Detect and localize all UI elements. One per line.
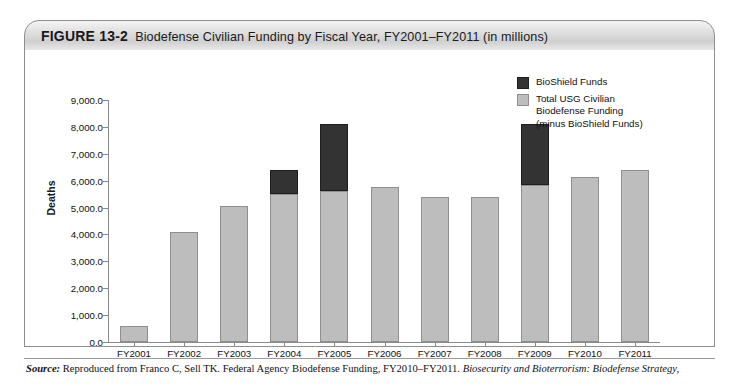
y-tick-label: 2,000.0: [41, 283, 103, 294]
bar-segment-total-usg: [621, 170, 649, 342]
bar-stack[interactable]: [270, 170, 298, 342]
bar-slot: [460, 100, 510, 342]
chart-legend: BioShield Funds Total USG Civilian Biode…: [517, 76, 682, 134]
bar-slot: [510, 100, 560, 342]
bar-segment-total-usg: [421, 197, 449, 342]
y-tick-mark: [103, 234, 108, 235]
chart-plot: Deaths 0.01,000.02,000.03,000.04,000.05,…: [25, 50, 716, 347]
source-divider: [24, 358, 715, 359]
bar-slot: [560, 100, 610, 342]
bar-segment-total-usg: [521, 185, 549, 342]
bar-segment-total-usg: [571, 177, 599, 342]
x-tick-mark: [234, 342, 235, 347]
x-tick-mark: [184, 342, 185, 347]
y-tick-label: 8,000.0: [41, 121, 103, 132]
x-tick-mark: [535, 342, 536, 347]
legend-label-bioshield: BioShield Funds: [536, 76, 607, 88]
bar-slot: [259, 100, 309, 342]
source-text: Reproduced from Franco C, Sell TK. Feder…: [60, 363, 463, 374]
bar-stack[interactable]: [371, 187, 399, 342]
bar-stack[interactable]: [521, 124, 549, 342]
y-tick-label: 0.0: [41, 337, 103, 348]
bar-stack[interactable]: [571, 177, 599, 342]
x-tick-mark: [635, 342, 636, 347]
source-label: Source:: [26, 363, 60, 374]
figure-title: Biodefense Civilian Funding by Fiscal Ye…: [128, 30, 548, 44]
y-tick-label: 3,000.0: [41, 256, 103, 267]
bar-stack[interactable]: [320, 124, 348, 342]
bar-stack[interactable]: [170, 232, 198, 342]
legend-label-total-usg: Total USG Civilian Biodefense Funding (m…: [536, 93, 643, 130]
bar-segment-total-usg: [320, 191, 348, 342]
y-tick-mark: [103, 261, 108, 262]
bar-segment-total-usg: [170, 232, 198, 342]
figure-number: FIGURE 13-2: [41, 28, 128, 44]
bar-group: [109, 100, 660, 342]
source-citation: Source: Reproduced from Franco C, Sell T…: [26, 363, 726, 374]
legend-item-bioshield: BioShield Funds: [517, 76, 682, 89]
figure-header-text: FIGURE 13-2 Biodefense Civilian Funding …: [25, 28, 548, 44]
figure-card: FIGURE 13-2 Biodefense Civilian Funding …: [24, 20, 715, 347]
x-tick-mark: [134, 342, 135, 347]
y-tick-label: 7,000.0: [41, 148, 103, 159]
y-tick-label: 4,000.0: [41, 229, 103, 240]
bar-slot: [109, 100, 159, 342]
y-tick-mark: [103, 208, 108, 209]
x-tick-mark: [435, 342, 436, 347]
figure-header: FIGURE 13-2 Biodefense Civilian Funding …: [24, 20, 715, 51]
bar-segment-total-usg: [220, 206, 248, 342]
black-swatch-icon: [517, 77, 529, 89]
bar-stack[interactable]: [120, 326, 148, 342]
bar-segment-total-usg: [120, 326, 148, 342]
bar-stack[interactable]: [220, 206, 248, 342]
y-tick-mark: [103, 315, 108, 316]
x-tick-mark: [284, 342, 285, 347]
x-tick-mark: [385, 342, 386, 347]
bar-slot: [410, 100, 460, 342]
gray-swatch-icon: [517, 94, 529, 106]
y-axis-tick-labels: 0.01,000.02,000.03,000.04,000.05,000.06,…: [41, 50, 103, 347]
figure-body: Deaths 0.01,000.02,000.03,000.04,000.05,…: [24, 50, 715, 347]
source-journal: Biosecurity and Bioterrorism: Biodefense…: [463, 363, 679, 374]
y-tick-mark: [103, 154, 108, 155]
y-tick-mark: [103, 342, 108, 343]
bar-segment-total-usg: [371, 187, 399, 342]
bar-slot: [309, 100, 359, 342]
bar-slot: [359, 100, 409, 342]
bar-stack[interactable]: [621, 170, 649, 342]
x-tick-mark: [585, 342, 586, 347]
bar-slot: [209, 100, 259, 342]
x-tick-mark: [334, 342, 335, 347]
y-tick-label: 1,000.0: [41, 310, 103, 321]
bar-segment-total-usg: [471, 197, 499, 342]
y-tick-label: 9,000.0: [41, 95, 103, 106]
x-tick-mark: [485, 342, 486, 347]
bar-stack[interactable]: [421, 197, 449, 342]
y-tick-label: 6,000.0: [41, 175, 103, 186]
y-tick-label: 5,000.0: [41, 202, 103, 213]
y-tick-mark: [103, 181, 108, 182]
y-tick-mark: [103, 100, 108, 101]
bar-segment-total-usg: [270, 194, 298, 342]
bar-slot: [610, 100, 660, 342]
bar-segment-bioshield: [270, 170, 298, 194]
bars-area: [109, 100, 660, 342]
bar-stack[interactable]: [471, 197, 499, 342]
y-tick-mark: [103, 288, 108, 289]
legend-item-total-usg: Total USG Civilian Biodefense Funding (m…: [517, 93, 682, 130]
bar-slot: [159, 100, 209, 342]
y-tick-mark: [103, 127, 108, 128]
bar-segment-bioshield: [320, 124, 348, 191]
